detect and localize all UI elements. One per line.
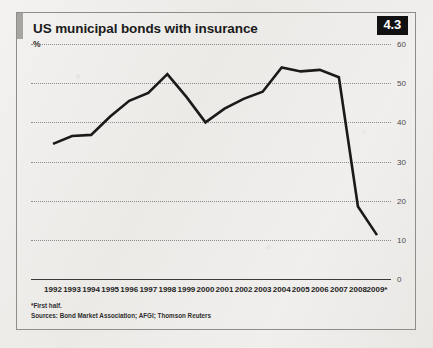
x-tick-label-2005: 2005 — [292, 285, 310, 294]
x-tick-label-2006: 2006 — [311, 285, 329, 294]
x-tick-label-1992: 1992 — [44, 285, 62, 294]
page-background: US municipal bonds with insurance % 4.3 … — [0, 0, 433, 348]
x-tick-label-2008: 2008 — [349, 285, 367, 294]
chart-notes: *First half. Sources: Bond Market Associ… — [31, 301, 401, 321]
x-tick-label-1995: 1995 — [101, 285, 119, 294]
x-tick-label-2009: 2009* — [367, 285, 388, 294]
x-tick-label-1993: 1993 — [63, 285, 81, 294]
y-tick-label-20: 20 — [397, 196, 406, 205]
figure-number-badge: 4.3 — [377, 16, 408, 35]
chart-title: US municipal bonds with insurance — [33, 21, 258, 36]
y-tick-label-40: 40 — [397, 118, 406, 127]
line-series — [31, 44, 391, 279]
x-tick-label-1999: 1999 — [178, 285, 196, 294]
x-tick-label-2007: 2007 — [330, 285, 348, 294]
x-tick-label-1998: 1998 — [158, 285, 176, 294]
x-tick-label-2003: 2003 — [254, 285, 272, 294]
x-tick-label-2002: 2002 — [235, 285, 253, 294]
y-tick-label-30: 30 — [397, 157, 406, 166]
zero-baseline — [31, 279, 391, 280]
x-tick-label-1997: 1997 — [139, 285, 157, 294]
x-axis-ticks: 1992199319941995199619971998199920002001… — [31, 285, 391, 297]
figure-card: US municipal bonds with insurance % 4.3 … — [16, 12, 416, 330]
y-tick-label-50: 50 — [397, 79, 406, 88]
x-tick-label-2001: 2001 — [216, 285, 234, 294]
sources-line: Sources: Bond Market Association; AFGI; … — [31, 311, 401, 321]
plot-area: 0102030405060 — [31, 44, 391, 279]
x-tick-label-2004: 2004 — [273, 285, 291, 294]
accent-bar — [17, 13, 23, 39]
x-tick-label-1996: 1996 — [120, 285, 138, 294]
y-tick-label-0: 0 — [397, 275, 401, 284]
x-tick-label-2000: 2000 — [197, 285, 215, 294]
y-tick-label-10: 10 — [397, 235, 406, 244]
x-tick-label-1994: 1994 — [82, 285, 100, 294]
y-tick-label-60: 60 — [397, 40, 406, 49]
footnote: *First half. — [31, 301, 401, 311]
